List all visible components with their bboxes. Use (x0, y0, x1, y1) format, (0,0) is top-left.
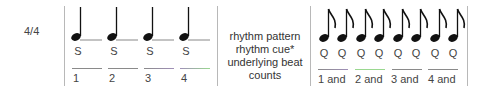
legend-counts: counts (222, 69, 308, 82)
rhythm-cue: Q (409, 47, 423, 59)
beat-count: 1 (73, 72, 79, 84)
legend-rhythm-pattern: rhythm pattern (222, 30, 308, 43)
beat-line (108, 68, 138, 69)
rhythm-cue: Q (354, 47, 368, 59)
beat-count: 2 and (355, 73, 383, 85)
beat-count: 2 (109, 72, 115, 84)
rhythm-cue: S (143, 45, 157, 57)
bar-line-mid-1 (217, 6, 218, 86)
quarter-note-icon (142, 4, 176, 42)
rhythm-cue: S (107, 45, 121, 57)
beat-line (180, 68, 210, 69)
beat-line (428, 69, 458, 70)
quarter-note-icon (178, 4, 212, 42)
bar-line-right (467, 6, 468, 86)
rhythm-cue: Q (317, 47, 331, 59)
rhythm-cue: S (71, 45, 85, 57)
rhythm-cue: Q (391, 47, 405, 59)
time-signature: 4/4 (24, 25, 39, 37)
beat-line (72, 68, 102, 69)
beat-count: 4 (181, 72, 187, 84)
quarter-note-icon (106, 4, 140, 42)
eighth-notes-icon (318, 6, 466, 44)
beat-count: 3 and (391, 73, 419, 85)
beat-line (392, 69, 422, 70)
beat-line (318, 69, 348, 70)
beat-line (144, 68, 174, 69)
legend-underlying-beat: underlying beat (222, 56, 308, 69)
rhythm-cue: Q (428, 47, 442, 59)
legend: rhythm pattern rhythm cue* underlying be… (222, 30, 308, 82)
bar-line-mid-2 (310, 6, 311, 86)
beat-count: 1 and (318, 73, 346, 85)
beat-line (355, 69, 385, 70)
rhythm-cue: Q (372, 47, 386, 59)
beat-count: 3 (145, 72, 151, 84)
quarter-note-icon (70, 4, 104, 42)
rhythm-cue: Q (446, 47, 460, 59)
rhythm-cue: Q (335, 47, 349, 59)
rhythm-cue: S (179, 45, 193, 57)
beat-count: 4 and (428, 73, 456, 85)
bar-line-left (64, 6, 65, 86)
legend-rhythm-cue: rhythm cue* (222, 43, 308, 56)
